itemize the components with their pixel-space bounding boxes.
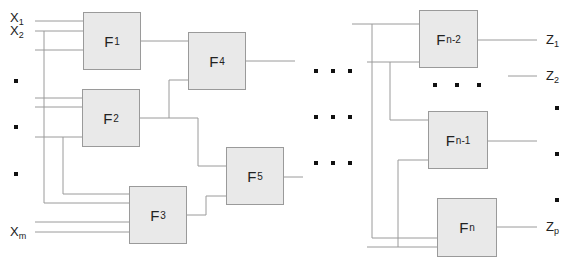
block-fn-1-base: F	[446, 132, 455, 149]
ellipsis-dot	[314, 69, 318, 73]
ellipsis-dot	[555, 152, 559, 156]
block-f5: F5	[226, 147, 284, 205]
ellipsis-dot	[555, 106, 559, 110]
block-f3: F3	[129, 186, 187, 244]
block-f2-base: F	[103, 110, 112, 127]
ellipsis-dot	[14, 79, 18, 83]
block-f1: F1	[83, 12, 141, 70]
output-z1-base: Z	[546, 32, 554, 47]
ellipsis-dot	[348, 69, 352, 73]
input-x2-base: X	[10, 23, 19, 38]
ellipsis-dot	[331, 69, 335, 73]
output-z2-base: Z	[546, 68, 554, 83]
block-f4-sub: 4	[219, 56, 225, 67]
block-f5-sub: 5	[257, 171, 263, 182]
block-fn-1-sub: n-1	[456, 135, 470, 146]
input-label-x2: X2	[10, 24, 24, 42]
block-fn-1: Fn-1	[428, 111, 488, 169]
ellipsis-dot	[314, 161, 318, 165]
block-fn-base: F	[459, 219, 468, 236]
ellipsis-dot	[555, 198, 559, 202]
block-f2: F2	[82, 89, 140, 147]
output-label-z1: Z1	[546, 33, 559, 51]
output-z2-sub: 2	[554, 75, 559, 85]
block-f2-sub: 2	[113, 113, 119, 124]
block-fn-sub: n	[469, 222, 475, 233]
input-xm-base: X	[10, 224, 19, 239]
output-z1-sub: 1	[554, 39, 559, 49]
ellipsis-dot	[14, 125, 18, 129]
block-f4: F4	[188, 32, 246, 90]
ellipsis-dot	[348, 115, 352, 119]
block-fn-2-base: F	[436, 31, 445, 48]
block-f1-sub: 1	[114, 36, 120, 47]
block-f5-base: F	[247, 168, 256, 185]
ellipsis-dot	[433, 83, 437, 87]
ellipsis-dot	[348, 161, 352, 165]
ellipsis-dot	[314, 115, 318, 119]
block-fn: Fn	[437, 198, 497, 257]
block-fn-2: Fn-2	[419, 10, 478, 68]
block-f1-base: F	[104, 33, 113, 50]
block-f4-base: F	[209, 53, 218, 70]
output-zp-base: Z	[546, 219, 554, 234]
output-zp-sub: p	[554, 226, 559, 236]
output-label-zp: Zp	[546, 220, 559, 238]
ellipsis-dot	[331, 115, 335, 119]
input-xm-sub: m	[19, 231, 27, 241]
input-x2-sub: 2	[19, 30, 24, 40]
ellipsis-dot	[477, 83, 481, 87]
block-f3-sub: 3	[160, 210, 166, 221]
ellipsis-dot	[14, 172, 18, 176]
output-label-z2: Z2	[546, 69, 559, 87]
input-label-xm: Xm	[10, 225, 26, 243]
block-fn-2-sub: n-2	[446, 34, 460, 45]
ellipsis-dot	[331, 161, 335, 165]
block-f3-base: F	[150, 207, 159, 224]
ellipsis-dot	[455, 83, 459, 87]
